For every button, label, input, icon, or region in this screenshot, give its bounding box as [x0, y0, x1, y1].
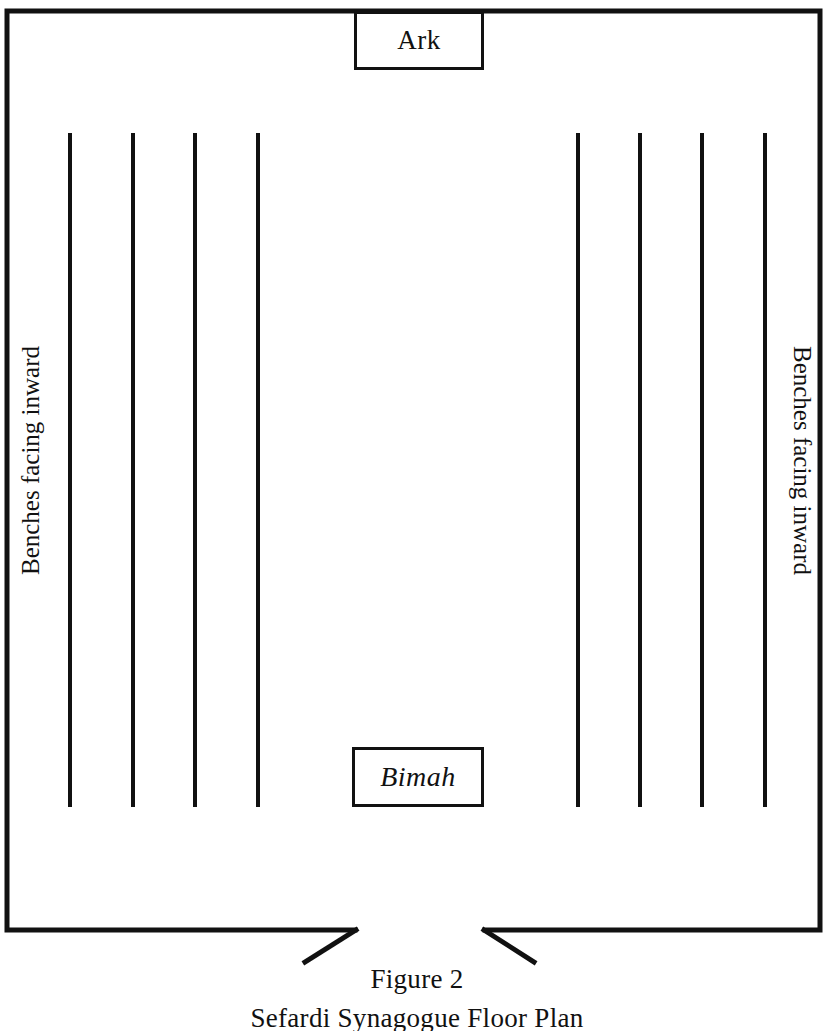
bench-rows-right — [578, 133, 765, 807]
bench-rows-left — [70, 133, 258, 807]
benches-right-label-text: Benches facing inward — [791, 345, 816, 574]
ark-label: Ark — [397, 27, 441, 54]
bimah-box: Bimah — [352, 747, 484, 807]
figure-caption: Figure 2 Sefardi Synagogue Floor Plan — [0, 962, 834, 1031]
ark-box: Ark — [354, 11, 484, 70]
benches-right-label: Benches facing inward — [772, 0, 834, 920]
floor-plan-drawing — [0, 0, 834, 1031]
benches-left-label: Benches facing inward — [0, 0, 62, 920]
bimah-label: Bimah — [380, 763, 456, 791]
figure-page: Ark Bimah Benches facing inward Benches … — [0, 0, 834, 1031]
right-door-leaf-line — [484, 930, 534, 962]
benches-left-label-text: Benches facing inward — [19, 345, 44, 574]
left-door-leaf-line — [305, 930, 356, 962]
figure-title: Sefardi Synagogue Floor Plan — [0, 1001, 834, 1031]
figure-number: Figure 2 — [0, 962, 834, 996]
